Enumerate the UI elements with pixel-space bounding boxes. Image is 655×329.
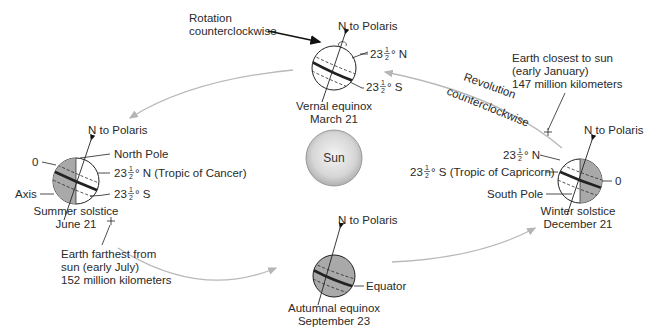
autumnal-polaris-label: N to Polaris <box>338 214 398 226</box>
svg-text:° S: ° S <box>387 81 403 93</box>
svg-text:° N: ° N <box>524 149 540 161</box>
winter-solstice-label: Winter solstice <box>541 205 616 217</box>
winter-polaris-label: N to Polaris <box>584 124 644 136</box>
svg-text:2: 2 <box>381 87 385 94</box>
seasons-diagram: Sun Rotation counterclockwise N to Polar… <box>0 0 655 329</box>
svg-text:1: 1 <box>385 46 389 53</box>
svg-text:° N (Tropic of Cancer): ° N (Tropic of Cancer) <box>135 167 247 179</box>
north-pole-label: North Pole <box>114 148 168 160</box>
globe-summer-solstice: N to Polaris North Pole 0 23 1 2 ° N (Tr… <box>15 124 247 230</box>
svg-text:° N: ° N <box>391 48 407 60</box>
svg-text:147 million kilometers: 147 million kilometers <box>512 78 623 90</box>
svg-text:° S: ° S <box>135 188 151 200</box>
winter-lat-s: 23 1 2 ° S (Tropic of Capricorn) <box>410 164 555 179</box>
vernal-lat-n: 23 1 2 ° N <box>360 46 407 61</box>
winter-lat-n: 23 1 2 ° N <box>503 147 540 162</box>
svg-text:Earth farthest from: Earth farthest from <box>61 248 156 260</box>
vernal-polaris-label: N to Polaris <box>338 20 398 32</box>
svg-text:23: 23 <box>410 166 423 178</box>
vernal-equinox-label: Vernal equinox <box>296 100 372 112</box>
summer-zero-label: 0 <box>32 156 38 168</box>
summer-lat-s: 23 1 2 ° S <box>114 186 151 201</box>
svg-text:1: 1 <box>129 186 133 193</box>
rotation-direction: counterclockwise <box>189 25 277 37</box>
sun-label: Sun <box>323 151 344 165</box>
svg-text:23: 23 <box>114 188 127 200</box>
axis-label: Axis <box>15 188 37 200</box>
svg-text:23: 23 <box>503 149 516 161</box>
autumnal-equinox-label: Autumnal equinox <box>288 302 380 314</box>
svg-text:2: 2 <box>129 173 133 180</box>
winter-zero-label: 0 <box>615 175 621 187</box>
globe-winter-solstice: N to Polaris 23 1 2 ° N 23 1 2 ° S (Trop… <box>410 124 644 230</box>
globe-autumnal-equinox: N to Polaris Equator Autumnal equinox Se… <box>288 214 406 327</box>
svg-text:1: 1 <box>381 79 385 86</box>
svg-text:2: 2 <box>129 194 133 201</box>
summer-polaris-label: N to Polaris <box>88 124 148 136</box>
south-pole-label: South Pole <box>487 188 543 200</box>
svg-text:(early January): (early January) <box>512 65 589 77</box>
svg-text:23: 23 <box>366 81 379 93</box>
svg-text:23: 23 <box>114 167 127 179</box>
summer-lat-n: 23 1 2 ° N (Tropic of Cancer) <box>114 165 247 180</box>
sun: Sun <box>306 130 362 186</box>
vernal-equinox-date: March 21 <box>310 113 358 125</box>
revolution-direction: counterclockwise <box>445 85 531 129</box>
summer-solstice-date: June 21 <box>56 218 97 230</box>
svg-text:1: 1 <box>518 147 522 154</box>
winter-solstice-date: December 21 <box>543 218 612 230</box>
svg-text:° S (Tropic of Capricorn): ° S (Tropic of Capricorn) <box>431 166 555 178</box>
autumnal-equinox-date: September 23 <box>298 315 370 327</box>
rotation-label: Rotation <box>189 12 232 24</box>
svg-text:152 million kilometers: 152 million kilometers <box>61 274 172 286</box>
svg-text:1: 1 <box>129 165 133 172</box>
aphelion-marker-icon <box>107 217 115 225</box>
equator-label: Equator <box>366 280 406 292</box>
rotation-annotation: Rotation counterclockwise <box>189 12 320 42</box>
svg-text:2: 2 <box>425 172 429 179</box>
svg-text:Earth closest to sun: Earth closest to sun <box>512 52 613 64</box>
svg-text:1: 1 <box>425 164 429 171</box>
svg-text:2: 2 <box>518 155 522 162</box>
svg-text:23: 23 <box>370 48 383 60</box>
vernal-lat-s: 23 1 2 ° S <box>362 79 403 94</box>
summer-solstice-label: Summer solstice <box>34 205 119 217</box>
svg-text:2: 2 <box>385 54 389 61</box>
svg-text:sun (early July): sun (early July) <box>61 261 139 273</box>
